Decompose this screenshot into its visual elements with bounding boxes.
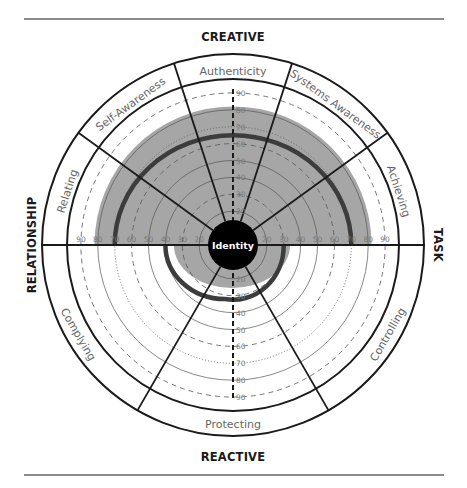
tick-label-down: 30	[236, 292, 246, 301]
tick-label-up: 50	[236, 157, 246, 166]
tick-label-up: 40	[236, 173, 246, 182]
sector-label-protecting: Protecting	[205, 418, 261, 431]
tick-label-left: 40	[161, 235, 171, 244]
tick-label-down: 90	[236, 393, 246, 402]
tick-label-left: 20	[194, 235, 204, 244]
tick-label-left: 50	[144, 235, 154, 244]
axis-title-creative: CREATIVE	[201, 30, 265, 44]
tick-label-right: 40	[296, 235, 306, 244]
axis-title-task: TASK	[431, 228, 445, 263]
identity-label: Identity	[212, 240, 255, 251]
tick-label-left: 30	[178, 235, 188, 244]
sector-divider	[246, 267, 329, 411]
tick-label-up: 80	[236, 106, 246, 115]
tick-label-down: 80	[236, 376, 246, 385]
tick-label-right: 50	[313, 235, 323, 244]
tick-label-down: 70	[236, 359, 246, 368]
tick-label-right: 20	[262, 235, 272, 244]
leadership-circle-diagram: 1010101020202020303030304040404050505050…	[0, 0, 467, 488]
tick-label-down: 20	[236, 275, 246, 284]
axis-title-relationship: RELATIONSHIP	[25, 197, 39, 294]
tick-label-left: 90	[76, 235, 86, 244]
tick-label-up: 90	[236, 89, 246, 98]
axis-title-reactive: REACTIVE	[201, 450, 266, 464]
tick-label-right: 70	[347, 235, 357, 244]
tick-label-up: 30	[236, 190, 246, 199]
tick-label-right: 60	[330, 235, 340, 244]
tick-label-up: 60	[236, 140, 246, 149]
tick-label-left: 60	[127, 235, 137, 244]
tick-label-up: 70	[236, 123, 246, 132]
tick-label-down: 60	[236, 342, 246, 351]
tick-label-right: 80	[363, 235, 373, 244]
top-rule	[24, 18, 444, 20]
sector-divider	[138, 267, 221, 411]
tick-label-up: 20	[236, 207, 246, 216]
radial-chart: 1010101020202020303030304040404050505050…	[0, 0, 467, 488]
tick-label-right: 90	[380, 235, 390, 244]
tick-label-left: 70	[110, 235, 120, 244]
tick-label-right: 30	[279, 235, 289, 244]
sector-label-authenticity: Authenticity	[200, 65, 267, 78]
bottom-rule	[24, 474, 444, 476]
tick-label-down: 40	[236, 309, 246, 318]
tick-label-left: 80	[93, 235, 103, 244]
tick-label-down: 50	[236, 326, 246, 335]
